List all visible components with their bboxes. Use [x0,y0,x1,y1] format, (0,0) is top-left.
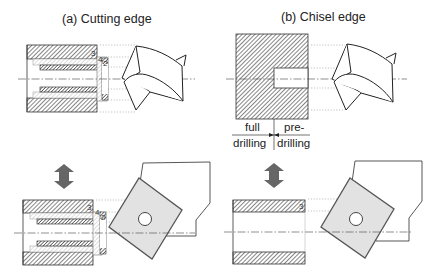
panel-b-workpiece-top [236,34,308,119]
label-pre-drilling: drilling [277,137,310,149]
double-arrow-a [54,164,74,189]
drill-tip-a [122,46,186,110]
panel-a-title: (a) Cutting edge [62,12,152,26]
layer-label-3: 3 [91,49,96,58]
panel-a-workpiece-bottom [23,200,106,265]
panel-b-title: (b) Chisel edge [281,10,366,24]
layer-label-3-bottom: 3 [87,203,92,212]
layer-label-3-b: 3 [299,202,304,211]
double-arrow-b [264,163,284,188]
label-full: full [245,121,260,133]
panel-a-workpiece-top [27,45,108,112]
layer-label-4-bottom: 4 [95,208,100,217]
diagram-canvas: (a) Cutting edge (b) Chisel edge 3 4 2 [0,0,436,279]
layer-label-2: 2 [103,59,108,68]
drill-tip-b [332,44,396,110]
label-full-drilling: drilling [233,137,266,149]
label-pre: pre- [284,121,305,133]
layer-label-2-bottom: 2 [101,213,106,222]
